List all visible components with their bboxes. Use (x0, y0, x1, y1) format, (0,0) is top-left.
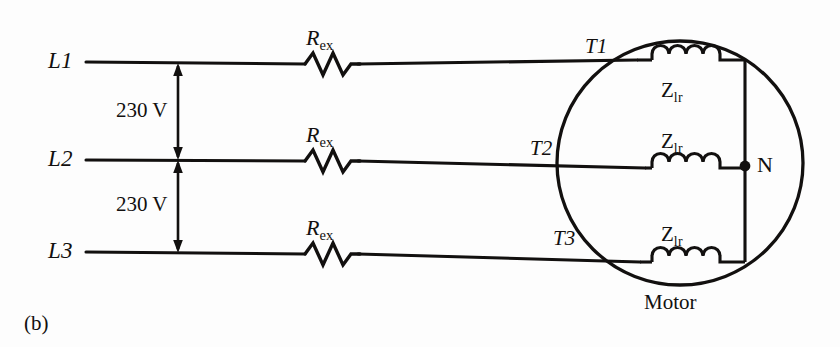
winding-label-T1: Zlr (661, 80, 683, 105)
resistor-label-L3-sub: ex (319, 227, 333, 243)
resistor-symbol-L2 (305, 150, 360, 172)
resistor-label-L1-symbol: R (306, 25, 319, 50)
resistor-label-L2-sub: ex (319, 134, 333, 150)
winding-label-T2-symbol: Z (661, 129, 674, 153)
line-label-L2: L2 (48, 147, 73, 170)
winding-label-T1-sub: lr (674, 90, 683, 105)
motor-winding-T3 (640, 166, 745, 262)
voltage-label-L2-L3: 230 V (113, 194, 171, 215)
motor-label: Motor (644, 292, 697, 313)
neutral-label: N (757, 154, 773, 176)
supply-line-L1 (86, 53, 637, 75)
resistor-label-L1: Rex (306, 27, 334, 53)
resistor-label-L3-symbol: R (306, 215, 319, 240)
winding-label-T3-sub: lr (674, 234, 683, 249)
figure-caption: (b) (24, 313, 49, 334)
supply-line-L2 (86, 150, 645, 172)
winding-label-T3: Zlr (661, 224, 683, 249)
motor-winding-T2 (645, 154, 745, 168)
resistor-label-L3: Rex (306, 217, 334, 243)
terminal-label-T3: T3 (553, 228, 575, 249)
motor-winding-T1 (637, 46, 745, 164)
resistor-label-L1-sub: ex (319, 37, 333, 53)
resistor-symbol-L1 (305, 53, 360, 75)
winding-label-T2: Zlr (661, 131, 683, 156)
terminal-label-T1: T1 (585, 36, 607, 57)
resistor-label-L2-symbol: R (306, 122, 319, 147)
voltage-label-L1-L2: 230 V (113, 100, 171, 121)
terminal-label-T2: T2 (530, 138, 552, 159)
neutral-node-dot (740, 161, 751, 172)
winding-label-T3-symbol: Z (661, 222, 674, 246)
resistor-label-L2: Rex (306, 124, 334, 150)
line-label-L1: L1 (48, 49, 73, 72)
circuit-diagram (0, 0, 840, 347)
voltage-arrow-L1-L2 (173, 63, 183, 160)
voltage-arrow-L2-L3 (173, 160, 183, 253)
figure-canvas: L1 L2 L3 230 V 230 V Rex Rex Rex T1 T2 T… (0, 0, 840, 347)
resistor-symbol-L3 (305, 243, 360, 265)
inductor-coil-T1 (652, 46, 720, 55)
winding-label-T2-sub: lr (674, 141, 683, 156)
winding-label-T1-symbol: Z (661, 78, 674, 102)
line-label-L3: L3 (48, 239, 73, 262)
